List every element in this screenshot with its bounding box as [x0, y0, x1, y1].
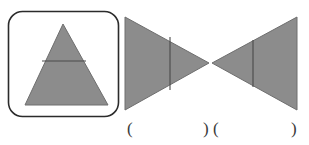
boxed-triangle-panel: [9, 12, 119, 117]
figure-root: ( ) ( ): [0, 0, 309, 145]
paren-close-right: ): [291, 120, 297, 137]
paren-close-left: ): [203, 120, 209, 137]
paren-open-right: (: [213, 120, 219, 137]
paren-open-left: (: [127, 120, 133, 137]
geometry-figure-svg: [0, 0, 309, 145]
